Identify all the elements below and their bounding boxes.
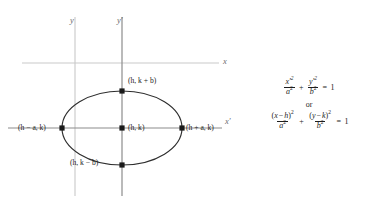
- equation-block: x′2 a2 + y′2 b2 = 1 or (x−h)2 a2 + (y−k)…: [250, 78, 368, 131]
- y-axis-label: y: [70, 16, 74, 25]
- x-axis-label: x: [223, 57, 227, 66]
- equation-connector-or: or: [250, 100, 368, 109]
- label-left-vertex: (h − a, k): [18, 124, 46, 132]
- eq2-term2-fraction: (y−k)2 b2: [307, 112, 333, 131]
- label-right-vertex: (h + a, k): [186, 124, 214, 132]
- eq2-right-hand-side: 1: [344, 117, 348, 126]
- eq2-term1-fraction: (x−h)2 a2: [270, 112, 296, 131]
- eq1-equals-sign: =: [321, 83, 329, 92]
- marker-left-vertex: [59, 125, 64, 130]
- label-top-covertex: (h, k + b): [128, 77, 156, 85]
- marker-top-covertex: [119, 88, 124, 93]
- equation-center-form: (x−h)2 a2 + (y−k)2 b2 = 1: [250, 112, 368, 131]
- eq1-term1-denominator: a2: [284, 87, 295, 97]
- marker-right-vertex: [179, 125, 184, 130]
- marker-bottom-covertex: [119, 162, 124, 167]
- eq2-term2-denominator: b2: [315, 121, 326, 131]
- eq2-plus-operator: +: [298, 117, 306, 126]
- equation-standard-form: x′2 a2 + y′2 b2 = 1: [250, 78, 368, 97]
- x-prime-axis-label: x′: [225, 117, 231, 126]
- label-center: (h, k): [128, 124, 144, 132]
- eq2-equals-sign: =: [335, 117, 343, 126]
- eq1-term2-fraction: y′2 b2: [307, 78, 319, 97]
- y-prime-axis-label: y′: [117, 16, 123, 25]
- eq1-right-hand-side: 1: [331, 83, 335, 92]
- eq2-term1-denominator: a2: [277, 121, 288, 131]
- label-bottom-covertex: (h, k − b): [70, 159, 98, 167]
- marker-center: [119, 125, 124, 130]
- eq1-plus-operator: +: [297, 83, 305, 92]
- eq1-term1-fraction: x′2 a2: [283, 78, 295, 97]
- eq1-term2-denominator: b2: [308, 87, 319, 97]
